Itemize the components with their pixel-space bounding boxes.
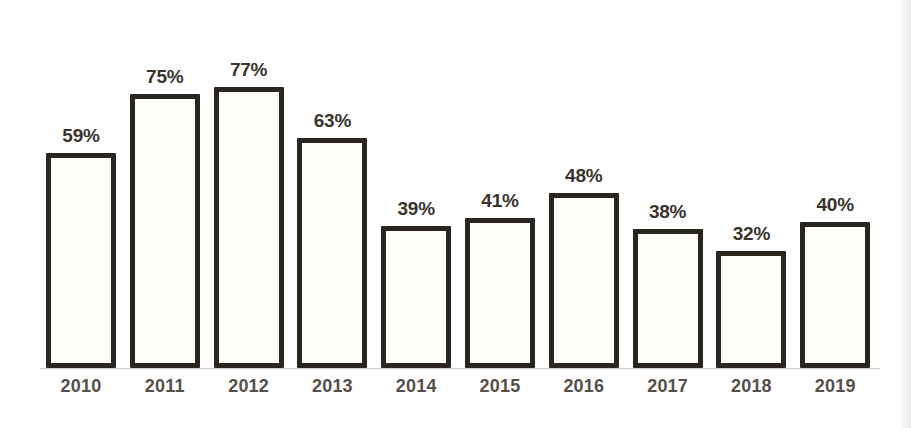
bar-value-label-2014: 39% <box>371 198 461 220</box>
axis-baseline <box>40 368 880 369</box>
bar-2012[interactable] <box>214 87 284 368</box>
bar-value-label-2019: 40% <box>790 194 880 216</box>
bar-2014[interactable] <box>381 226 451 368</box>
bar-2015[interactable] <box>465 218 535 368</box>
bar-value-label-2011: 75% <box>120 66 210 88</box>
x-axis-label-2019: 2019 <box>790 376 880 397</box>
x-axis-label-2012: 2012 <box>204 376 294 397</box>
x-axis-label-2017: 2017 <box>623 376 713 397</box>
x-axis-label-2014: 2014 <box>371 376 461 397</box>
bar-2019[interactable] <box>800 222 870 368</box>
bar-value-label-2017: 38% <box>623 201 713 223</box>
bar-value-label-2015: 41% <box>455 190 545 212</box>
bar-2017[interactable] <box>633 229 703 368</box>
bar-2013[interactable] <box>297 138 367 368</box>
bar-2016[interactable] <box>549 193 619 368</box>
x-axis-label-2015: 2015 <box>455 376 545 397</box>
x-axis-label-2010: 2010 <box>36 376 126 397</box>
bar-2018[interactable] <box>716 251 786 368</box>
bar-value-label-2013: 63% <box>287 110 377 132</box>
x-axis-label-2013: 2013 <box>287 376 377 397</box>
bar-value-label-2012: 77% <box>204 59 294 81</box>
bar-chart: 59%201075%201177%201263%201339%201441%20… <box>0 0 911 428</box>
x-axis-label-2016: 2016 <box>539 376 629 397</box>
x-axis-label-2011: 2011 <box>120 376 210 397</box>
bar-value-label-2010: 59% <box>36 125 126 147</box>
bar-2011[interactable] <box>130 94 200 368</box>
bar-value-label-2016: 48% <box>539 165 629 187</box>
scan-edge-artifact <box>899 0 911 428</box>
bar-value-label-2018: 32% <box>706 223 796 245</box>
x-axis-label-2018: 2018 <box>706 376 796 397</box>
bar-2010[interactable] <box>46 153 116 368</box>
